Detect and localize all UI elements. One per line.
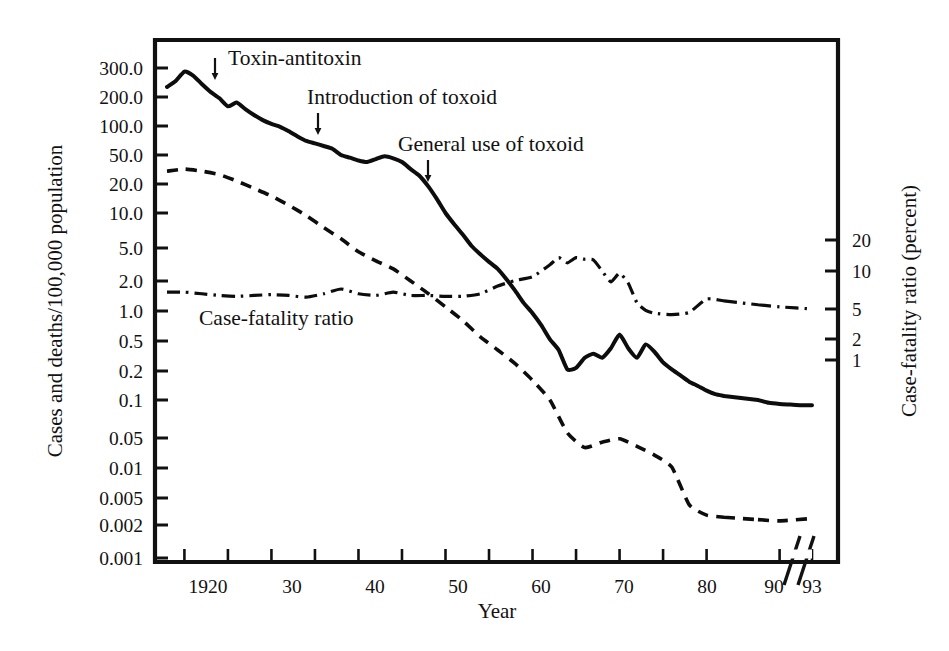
left-tick-label-12: 0.05 <box>109 428 143 449</box>
left-tick-label-8: 1.0 <box>119 301 143 322</box>
left-tick-label-5: 10.0 <box>109 203 143 224</box>
annotation-label: Introduction of toxoid <box>307 85 497 109</box>
left-tick-label-1: 200.0 <box>99 87 143 108</box>
left-tick-label-16: 0.001 <box>99 548 143 569</box>
annotation-toxin-antitoxin: Toxin-antitoxin <box>212 46 362 80</box>
bottom-tick-label-2: 40 <box>365 576 385 597</box>
left-tick-label-3: 50.0 <box>109 145 143 166</box>
right-tick-label-4: 1 <box>852 350 862 371</box>
chart-canvas: 300.0200.0100.050.020.010.05.02.01.00.50… <box>0 0 949 651</box>
right-axis-title: Case-fatality ratio (percent) <box>897 185 921 417</box>
annotation-label: Toxin-antitoxin <box>228 46 362 70</box>
left-tick-label-14: 0.005 <box>99 488 143 509</box>
annotation-arrow-head-icon <box>212 73 219 80</box>
right-tick-label-2: 5 <box>852 299 862 320</box>
bottom-tick-label-6: 80 <box>697 576 717 597</box>
bottom-tick-label-8: 93 <box>802 576 822 597</box>
left-tick-label-9: 0.5 <box>119 331 143 352</box>
annotation-general-use-of-toxoid: General use of toxoid <box>398 132 584 182</box>
left-tick-label-11: 0.1 <box>119 390 143 411</box>
left-tick-label-0: 300.0 <box>99 58 143 79</box>
left-tick-label-7: 2.0 <box>119 271 143 292</box>
annotation-layer: Toxin-antitoxinIntroduction of toxoidGen… <box>199 46 584 330</box>
left-tick-label-13: 0.01 <box>109 458 143 479</box>
left-tick-label-2: 100.0 <box>99 116 143 137</box>
chart-figure: 300.0200.0100.050.020.010.05.02.01.00.50… <box>0 0 949 651</box>
series-deaths-line <box>167 169 812 521</box>
right-axis-tick-labels: 2010521 <box>852 230 871 371</box>
bottom-tick-label-7: 90 <box>764 576 784 597</box>
right-tick-label-0: 20 <box>852 230 871 251</box>
series-cases-line <box>167 72 812 406</box>
annotation-case-fatality-ratio: Case-fatality ratio <box>199 306 354 330</box>
left-tick-label-10: 0.2 <box>119 361 143 382</box>
right-tick-label-3: 2 <box>852 329 862 350</box>
left-tick-label-15: 0.002 <box>99 515 143 536</box>
annotation-label: General use of toxoid <box>398 132 584 156</box>
bottom-axis-title: Year <box>478 599 517 623</box>
annotation-label: Case-fatality ratio <box>199 306 354 330</box>
left-tick-label-4: 20.0 <box>109 174 143 195</box>
bottom-tick-label-0: 1920 <box>189 576 228 597</box>
bottom-tick-label-1: 30 <box>282 576 302 597</box>
annotation-arrow-head-icon <box>315 128 322 135</box>
annotation-introduction-of-toxoid: Introduction of toxoid <box>307 85 497 135</box>
bottom-tick-label-4: 60 <box>531 576 551 597</box>
left-axis-tick-labels: 300.0200.0100.050.020.010.05.02.01.00.50… <box>99 58 143 569</box>
left-tick-label-6: 5.0 <box>119 238 143 259</box>
bottom-tick-label-5: 70 <box>614 576 634 597</box>
left-axis-title: Cases and deaths/100,000 population <box>43 144 67 457</box>
bottom-tick-label-3: 50 <box>448 576 468 597</box>
bottom-axis-tick-labels: 19203040506070809093 <box>189 576 822 597</box>
right-tick-label-1: 10 <box>852 261 871 282</box>
